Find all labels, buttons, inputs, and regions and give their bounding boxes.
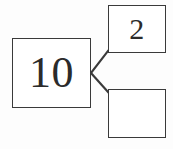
number-bond-diagram: 10 2 bbox=[0, 0, 173, 149]
whole-number-value: 10 bbox=[29, 51, 74, 95]
connector-line-top bbox=[91, 51, 108, 73]
connector-line-bottom bbox=[91, 73, 108, 92]
whole-number-box[interactable]: 10 bbox=[12, 38, 91, 108]
part-box-bottom[interactable] bbox=[108, 89, 166, 138]
part-box-top[interactable]: 2 bbox=[108, 5, 166, 53]
part-top-value: 2 bbox=[129, 14, 145, 44]
